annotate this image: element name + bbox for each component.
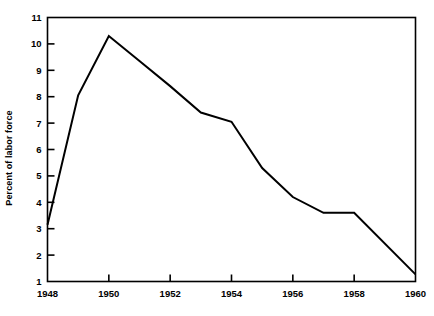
- x-tick-label: 1958: [344, 288, 365, 299]
- y-tick-label: 8: [36, 91, 41, 102]
- y-tick-label: 4: [36, 197, 42, 208]
- x-tick-label: 1956: [282, 288, 303, 299]
- y-tick-label: 9: [36, 65, 41, 76]
- y-tick-label: 6: [36, 144, 41, 155]
- line-chart: Percent of labor force 12345678910111948…: [0, 0, 434, 316]
- x-tick-label: 1960: [405, 288, 426, 299]
- y-tick-label: 7: [36, 118, 41, 129]
- y-tick-label: 5: [36, 170, 42, 181]
- data-line: [48, 36, 416, 274]
- y-tick-label: 1: [36, 276, 42, 287]
- y-tick-label: 2: [36, 250, 41, 261]
- x-tick-label: 1950: [98, 288, 119, 299]
- y-tick-label: 3: [36, 223, 41, 234]
- y-tick-label: 10: [31, 38, 42, 49]
- x-tick-label: 1952: [160, 288, 181, 299]
- plot-area: 1234567891011194819501952195419561958196…: [0, 0, 434, 316]
- x-tick-label: 1954: [221, 288, 243, 299]
- y-tick-label: 11: [31, 12, 42, 23]
- plot-frame: [48, 18, 416, 282]
- x-tick-label: 1948: [37, 288, 58, 299]
